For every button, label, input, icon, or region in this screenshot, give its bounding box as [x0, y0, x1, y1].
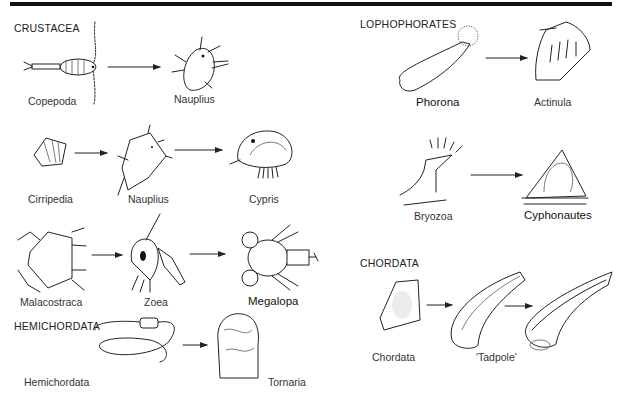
stage-label-phorona: Phorona [416, 96, 459, 108]
cyphonautes-illustration [522, 150, 588, 204]
stage-label-megalopa: Megalopa [248, 295, 299, 307]
group-heading-crustacea: CRUSTACEA [14, 22, 80, 34]
tadpole-larva-illustration [451, 272, 525, 348]
stage-label-malacostraca: Malacostraca [20, 296, 82, 308]
malacostraca-illustration [18, 228, 86, 292]
stage-label-tadpole: 'Tadpole' [476, 351, 517, 363]
zoea-illustration [131, 214, 185, 292]
stage-label-bryozoa: Bryozoa [414, 210, 453, 222]
stage-label-chordata: Chordata [372, 351, 415, 363]
stage-label-nauplius: Nauplius [174, 93, 215, 105]
phorona-illustration [399, 26, 478, 91]
stage-label-cypris: Cypris [249, 193, 279, 205]
actinula-illustration [536, 22, 590, 80]
group-heading-chordata: CHORDATA [360, 257, 419, 269]
hemichordata-illustration [95, 318, 175, 362]
group-heading-lophophorates: LOPHOPHORATES [360, 18, 456, 30]
cypris-illustration [230, 131, 292, 178]
group-heading-hemichordata: HEMICHORDATA [14, 320, 100, 332]
stage-label-cyphonautes: Cyphonautes [524, 209, 592, 221]
stage-label-actinula: Actinula [534, 96, 571, 108]
illustrations [0, 0, 622, 404]
chordate-larva-illustration [525, 272, 612, 350]
chordata-illustration [380, 280, 420, 330]
megalopa-illustration [242, 225, 318, 290]
copepoda-illustration [24, 22, 96, 104]
tornaria-illustration [218, 314, 259, 378]
bryozoa-illustration [400, 138, 462, 205]
stage-label-zoea: Zoea [144, 296, 168, 308]
nauplius-illustration-2 [118, 125, 172, 195]
stage-label-copepoda: Copepoda [28, 95, 76, 107]
stage-label-hemichordata: Hemichordata [24, 376, 89, 388]
stage-label-cirripedia: Cirripedia [28, 193, 73, 205]
nauplius-illustration [172, 37, 228, 90]
stage-label-nauplius-2: Nauplius [128, 193, 169, 205]
stage-label-tornaria: Tornaria [268, 376, 306, 388]
cirripedia-illustration [34, 138, 66, 166]
